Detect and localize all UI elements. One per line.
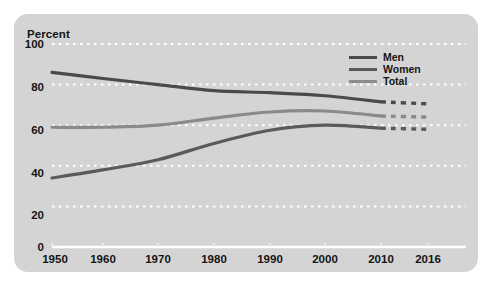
x-tick-1950: 1950	[31, 253, 79, 265]
series-dashed-projection-total	[381, 116, 428, 117]
series-dashed-projection-men	[381, 102, 428, 104]
x-tick-1980: 1980	[190, 253, 238, 265]
line-chart-plot	[0, 0, 493, 285]
series-line-women	[52, 125, 381, 178]
legend-label-men: Men	[383, 52, 404, 63]
x-tick-2016: 2016	[404, 253, 452, 265]
legend-swatch-women	[349, 68, 377, 72]
legend-swatch-total	[349, 80, 377, 84]
legend-item-women: Women	[349, 64, 421, 75]
x-tick-1970: 1970	[134, 253, 182, 265]
chart-legend: Men Women Total	[349, 52, 421, 88]
x-tick-2010: 2010	[357, 253, 405, 265]
series-line-men	[52, 72, 381, 101]
series-dashed-projection-women	[381, 128, 428, 129]
legend-swatch-men	[349, 56, 377, 60]
legend-item-men: Men	[349, 52, 421, 63]
legend-item-total: Total	[349, 76, 421, 87]
x-tick-1990: 1990	[246, 253, 294, 265]
legend-label-women: Women	[383, 64, 421, 75]
x-tick-2000: 2000	[301, 253, 349, 265]
legend-label-total: Total	[383, 76, 407, 87]
x-tick-1960: 1960	[79, 253, 127, 265]
